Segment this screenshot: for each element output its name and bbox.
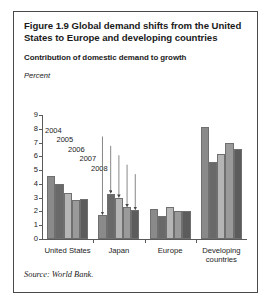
y-tick-mark [39, 198, 42, 199]
y-tick-mark [39, 143, 42, 144]
bar [131, 210, 139, 239]
figure-inner: Figure 1.9 Global demand shifts from the… [14, 12, 257, 292]
y-tick-mark [39, 129, 42, 130]
y-tick-mark [39, 156, 42, 157]
bar [209, 162, 217, 239]
bar [225, 143, 233, 239]
bar [158, 216, 166, 239]
chart-plot-area: 0123456789 20042005200620072008 [42, 115, 247, 240]
figure-title: Figure 1.9 Global demand shifts from the… [24, 20, 242, 44]
chart-plot-wrapper: 0123456789 20042005200620072008 United S… [24, 115, 250, 255]
x-category-label: Europe [145, 246, 196, 255]
y-tick-mark [39, 239, 42, 240]
figure-subtitle: Contribution of domestic demand to growt… [24, 53, 248, 63]
bar [166, 207, 174, 239]
y-tick-mark [39, 170, 42, 171]
y-tick-mark [39, 115, 42, 116]
bar-group [150, 115, 191, 239]
bar-group [47, 115, 88, 239]
bar-group [201, 115, 242, 239]
bar [72, 200, 80, 239]
bar [150, 209, 158, 239]
y-tick-label: 9 [34, 111, 38, 119]
bar [55, 184, 63, 239]
y-tick-label: 7 [34, 139, 38, 147]
bar [107, 194, 115, 239]
y-tick-label: 5 [34, 166, 38, 174]
x-category-label: United States [42, 246, 93, 255]
y-tick-label: 3 [34, 194, 38, 202]
y-tick-label: 6 [34, 153, 38, 161]
bar [80, 199, 88, 239]
y-axis-unit-label: Percent [24, 71, 248, 80]
y-tick-label: 8 [34, 125, 38, 133]
y-tick-label: 1 [34, 221, 38, 229]
y-tick-label: 0 [34, 235, 38, 243]
bar [64, 193, 72, 239]
y-tick-mark [39, 225, 42, 226]
y-axis-line [42, 115, 43, 240]
x-category-label: Developing countries [196, 246, 247, 265]
bar [217, 154, 225, 239]
bar [201, 127, 209, 239]
bar [174, 211, 182, 239]
x-tick-mark [93, 240, 94, 243]
source-note: Source: World Bank. [24, 270, 93, 279]
x-category-label: Japan [93, 246, 144, 255]
bar [123, 207, 131, 239]
y-tick-mark [39, 211, 42, 212]
bar [115, 198, 123, 239]
y-tick-label: 2 [34, 208, 38, 216]
x-tick-mark [145, 240, 146, 243]
bar-group [98, 115, 139, 239]
y-tick-mark [39, 184, 42, 185]
bar [182, 211, 190, 239]
figure-container: Figure 1.9 Global demand shifts from the… [13, 11, 258, 293]
bar [47, 176, 55, 239]
bar [234, 149, 242, 239]
bar [98, 215, 106, 239]
y-tick-label: 4 [34, 180, 38, 188]
x-tick-mark [196, 240, 197, 243]
